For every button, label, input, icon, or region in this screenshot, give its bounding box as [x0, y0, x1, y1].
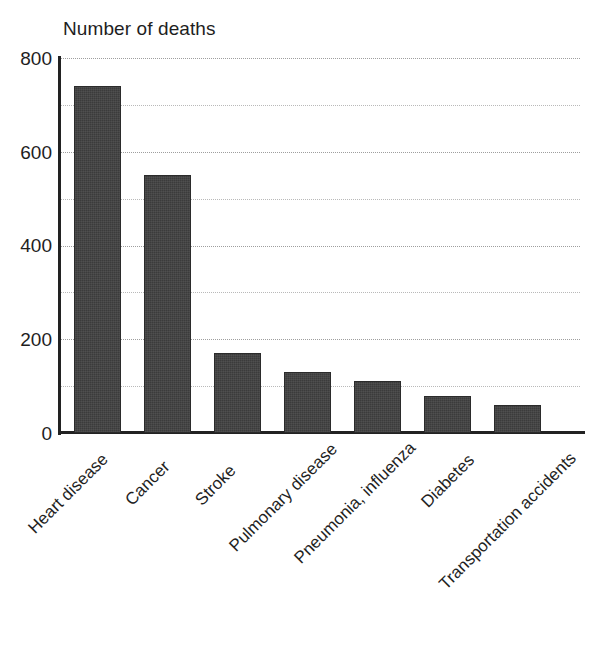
x-label-diabetes: Diabetes	[418, 451, 477, 510]
x-axis-labels: Heart disease Cancer Stroke Pulmonary di…	[0, 0, 600, 651]
x-label-cancer: Cancer	[122, 458, 173, 509]
x-label-stroke: Stroke	[192, 462, 239, 509]
x-label-heart-disease: Heart disease	[25, 450, 111, 536]
bar-chart: Number of deaths 800 600 400 200 0 Heart…	[0, 0, 600, 651]
